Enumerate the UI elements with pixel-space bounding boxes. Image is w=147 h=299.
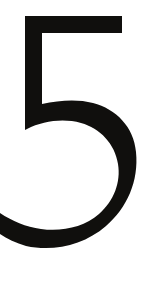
- image-canvas: 5: [0, 0, 147, 299]
- digit-five-glyph: [0, 0, 147, 299]
